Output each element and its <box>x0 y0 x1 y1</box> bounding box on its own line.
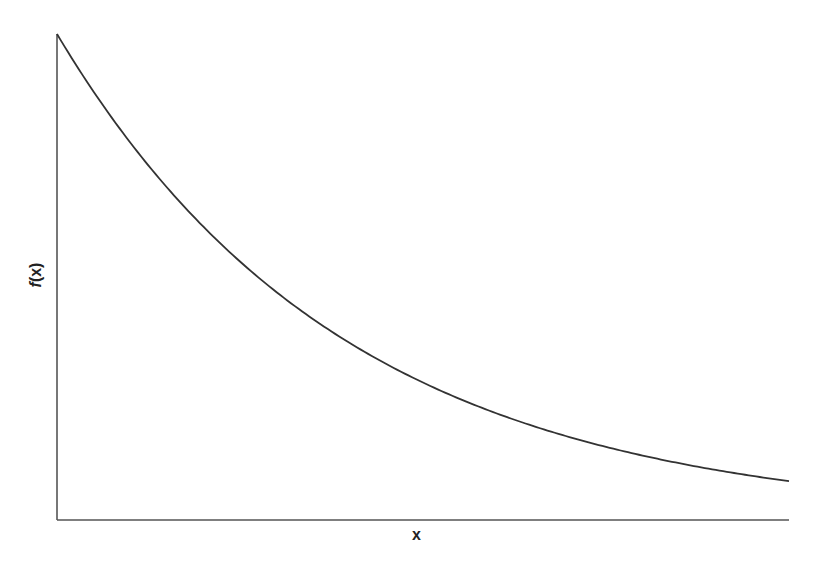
x-axis-label: x <box>412 526 421 544</box>
y-axis-label-fn: f <box>27 282 44 287</box>
y-axis-label-arg: (x) <box>27 263 44 283</box>
y-axis-label: f(x) <box>27 263 45 288</box>
decay-curve <box>57 34 789 481</box>
chart-canvas <box>0 0 821 565</box>
